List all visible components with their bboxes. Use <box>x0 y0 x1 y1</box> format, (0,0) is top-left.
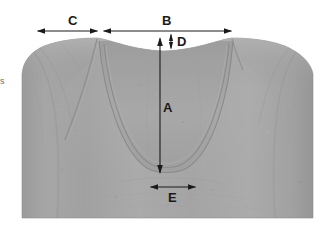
measure-label-B: B <box>162 14 171 27</box>
measure-line-D <box>169 34 173 50</box>
measure-label-E: E <box>168 191 177 204</box>
measure-label-C: C <box>68 14 77 27</box>
diagram-canvas: C B D A E s <box>0 0 323 237</box>
measure-label-A: A <box>163 101 172 114</box>
measure-line-C <box>37 28 98 34</box>
cropped-edge-text: s <box>0 77 5 86</box>
tshirt-illustration <box>0 0 323 237</box>
measure-line-B <box>103 28 232 34</box>
measure-label-D: D <box>177 35 186 48</box>
